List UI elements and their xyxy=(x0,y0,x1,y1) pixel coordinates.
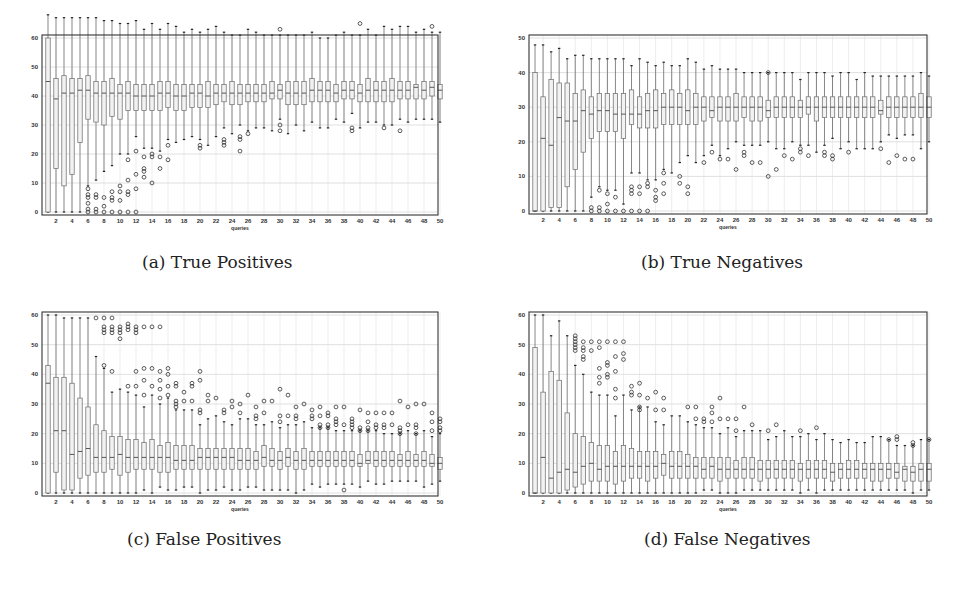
box xyxy=(302,449,306,470)
box xyxy=(406,451,410,466)
x-tick-label: 40 xyxy=(845,217,852,223)
box xyxy=(670,451,674,478)
x-tick-label: 50 xyxy=(437,218,444,224)
x-axis-label: queries xyxy=(231,506,249,512)
box xyxy=(430,82,434,97)
box xyxy=(702,457,706,478)
box xyxy=(549,80,553,208)
box xyxy=(629,90,633,125)
box xyxy=(110,79,114,117)
box xyxy=(541,97,545,211)
x-tick-label: 24 xyxy=(229,218,236,224)
box xyxy=(565,83,569,187)
x-tick-label: 22 xyxy=(213,499,220,505)
x-tick-label: 20 xyxy=(684,499,691,505)
box xyxy=(158,446,162,473)
box xyxy=(198,449,202,470)
box xyxy=(887,463,891,478)
box xyxy=(798,100,802,117)
y-tick-label: 20 xyxy=(31,151,38,157)
x-tick-label: 8 xyxy=(102,499,106,505)
box xyxy=(270,82,274,99)
x-tick-label: 44 xyxy=(389,218,396,224)
x-tick-label: 24 xyxy=(717,217,724,223)
x-tick-label: 2 xyxy=(541,217,545,223)
y-tick-label: 40 xyxy=(31,93,38,99)
box xyxy=(653,451,657,478)
box xyxy=(190,84,194,107)
x-tick-label: 28 xyxy=(749,499,756,505)
x-tick-label: 10 xyxy=(117,218,124,224)
box xyxy=(919,463,923,481)
x-tick-label: 12 xyxy=(133,218,140,224)
box xyxy=(726,97,730,121)
x-tick-label: 38 xyxy=(829,499,836,505)
box xyxy=(238,449,242,470)
x-tick-label: 32 xyxy=(781,499,788,505)
x-tick-label: 14 xyxy=(636,217,643,223)
box xyxy=(270,449,274,467)
box xyxy=(174,84,178,110)
box xyxy=(190,446,194,470)
x-axis-label: queries xyxy=(231,225,249,231)
box xyxy=(70,383,74,490)
y-tick-label: 20 xyxy=(518,139,525,145)
box xyxy=(903,466,907,481)
outliers xyxy=(86,22,434,214)
box xyxy=(214,449,218,470)
x-tick-label: 22 xyxy=(701,217,708,223)
box xyxy=(661,93,665,124)
x-tick-label: 36 xyxy=(325,499,332,505)
box xyxy=(430,454,434,466)
box xyxy=(390,451,394,466)
box xyxy=(637,97,641,128)
box xyxy=(422,451,426,466)
x-tick-label: 8 xyxy=(590,499,594,505)
x-tick-label: 48 xyxy=(421,218,428,224)
box xyxy=(206,82,210,108)
y-tick-label: 0 xyxy=(35,490,39,496)
x-tick-label: 44 xyxy=(877,217,884,223)
box xyxy=(750,97,754,121)
x-tick-label: 30 xyxy=(277,218,284,224)
x-tick-label: 4 xyxy=(70,218,74,224)
box xyxy=(62,377,66,490)
y-tick-label: 30 xyxy=(31,401,38,407)
x-tick-label: 42 xyxy=(373,499,380,505)
y-tick-label: 30 xyxy=(518,104,525,110)
box xyxy=(726,457,730,478)
y-tick-label: 30 xyxy=(31,122,38,128)
box xyxy=(318,451,322,466)
x-tick-label: 32 xyxy=(293,218,300,224)
boxes xyxy=(533,45,931,211)
box xyxy=(557,83,561,208)
box xyxy=(326,82,330,102)
x-tick-label: 26 xyxy=(245,218,252,224)
box xyxy=(911,466,915,481)
x-tick-label: 14 xyxy=(636,499,643,505)
y-tick-label: 10 xyxy=(518,460,525,466)
caption-false-positives: (c) False Positives xyxy=(127,529,281,549)
x-tick-label: 6 xyxy=(574,217,578,223)
box xyxy=(806,97,810,114)
box xyxy=(710,97,714,118)
x-tick-label: 34 xyxy=(309,218,316,224)
y-tick-label: 10 xyxy=(31,460,38,466)
x-tick-label: 22 xyxy=(213,218,220,224)
y-tick-label: 60 xyxy=(518,312,525,318)
y-tick-label: 50 xyxy=(31,342,38,348)
box xyxy=(605,446,609,482)
x-tick-label: 26 xyxy=(245,499,252,505)
x-tick-label: 18 xyxy=(181,218,188,224)
y-tick-label: 20 xyxy=(31,431,38,437)
x-tick-label: 16 xyxy=(652,217,659,223)
box xyxy=(374,82,378,102)
x-tick-label: 6 xyxy=(574,499,578,505)
x-tick-label: 16 xyxy=(652,499,659,505)
x-tick-label: 26 xyxy=(733,217,740,223)
x-tick-label: 30 xyxy=(277,499,284,505)
box xyxy=(581,437,585,484)
x-tick-label: 24 xyxy=(717,499,724,505)
x-tick-label: 34 xyxy=(309,499,316,505)
x-tick-label: 42 xyxy=(861,217,868,223)
